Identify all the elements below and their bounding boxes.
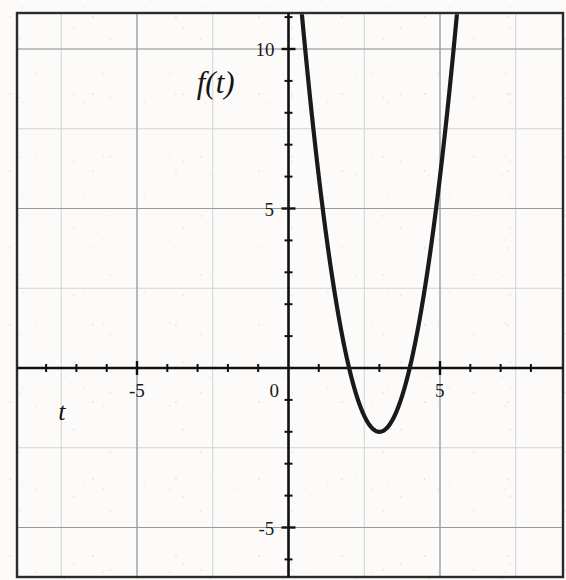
x-tick-label-0: 0 [270, 381, 280, 400]
x-tick-label-5: 5 [435, 381, 445, 400]
x-tick-label-minus-5: -5 [129, 381, 145, 400]
axes-lines [17, 13, 563, 577]
x-axis-label: t [58, 399, 65, 425]
y-tick-label-5: 5 [265, 200, 275, 219]
graph-figure: 10 5 -5 -5 0 5 f(t) t [0, 0, 566, 580]
minor-gridlines [17, 13, 563, 577]
y-tick-label-10: 10 [256, 40, 275, 59]
plot-frame [17, 13, 563, 577]
y-tick-label-minus-5: -5 [259, 519, 275, 538]
y-axis-label: f(t) [197, 67, 235, 98]
plot-canvas [0, 0, 566, 580]
major-gridlines [17, 13, 563, 577]
